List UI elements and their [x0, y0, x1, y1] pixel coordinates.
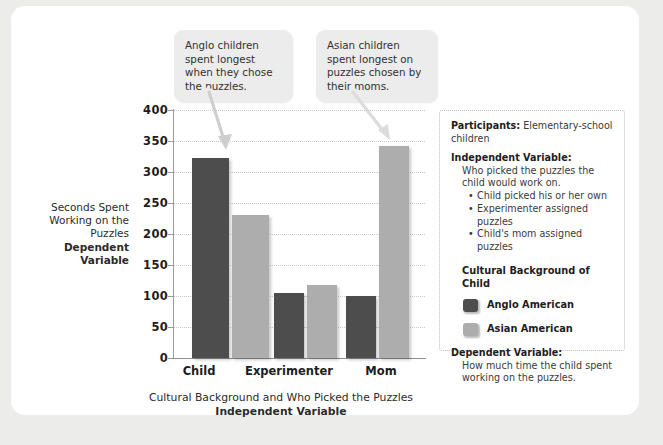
bar-mom-anglo[interactable] — [346, 296, 376, 358]
legend-heading: Cultural Background of Child — [451, 265, 614, 290]
iv-bullet-3: Child's mom assigned puzzles — [477, 228, 614, 254]
iv-label: Independent Variable: — [451, 152, 614, 165]
bar-experimenter-asian[interactable] — [307, 285, 337, 358]
figure-card: Anglo children spent longest when they c… — [11, 6, 639, 415]
gridline-400 — [174, 110, 425, 111]
participants-block: Participants: Elementary-school children — [451, 120, 614, 145]
x-axis-title: Cultural Background and Who Picked the P… — [131, 391, 431, 419]
y-tick-50: 50 — [132, 320, 168, 334]
independent-variable-block: Independent Variable: Who picked the puz… — [451, 152, 614, 254]
y-axis-title-line3: Puzzles — [29, 227, 129, 240]
x-category-experimenter: Experimenter — [239, 364, 339, 378]
callout-anglo: Anglo children spent longest when they c… — [174, 30, 292, 102]
x-category-child: Child — [159, 364, 239, 378]
x-axis-title-line1: Cultural Background and Who Picked the P… — [131, 391, 431, 405]
bar-child-anglo[interactable] — [192, 158, 229, 358]
iv-bullet-1: Child picked his or her own — [477, 190, 614, 203]
y-axis-title: Seconds Spent Working on the Puzzles Dep… — [29, 201, 129, 267]
callout-asian: Asian children spent longest on puzzles … — [316, 30, 437, 102]
bar-mom-asian[interactable] — [379, 146, 409, 358]
y-tick-350: 350 — [132, 134, 168, 148]
y-axis-title-line1: Seconds Spent — [29, 201, 129, 214]
bar-experimenter-anglo[interactable] — [274, 293, 304, 358]
y-tick-400: 400 — [132, 103, 168, 117]
y-axis-title-bold2: Variable — [29, 254, 129, 267]
info-panel: Participants: Elementary-school children… — [439, 110, 625, 351]
y-tick-200: 200 — [132, 227, 168, 241]
legend-label-asian: Asian American — [487, 323, 573, 336]
y-axis-title-bold1: Dependent — [29, 241, 129, 254]
iv-bullet-list: Child picked his or her own Experimenter… — [451, 190, 614, 254]
dv-text: How much time the child spent working on… — [451, 360, 614, 385]
legend-label-anglo: Anglo American — [487, 299, 574, 312]
y-tick-150: 150 — [132, 258, 168, 272]
legend-item-anglo: Anglo American — [451, 299, 614, 312]
y-tick-0: 0 — [132, 351, 168, 365]
plot-area — [174, 110, 425, 358]
x-category-mom: Mom — [341, 364, 421, 378]
bar-child-asian[interactable] — [232, 215, 269, 358]
legend-swatch-anglo-icon — [463, 299, 478, 312]
iv-text: Who picked the puzzles the child would w… — [451, 165, 614, 190]
y-axis-tick-labels: 400 350 300 250 200 150 100 50 0 — [129, 6, 168, 415]
dependent-variable-block: Dependent Variable: How much time the ch… — [451, 347, 614, 385]
iv-bullet-2: Experimenter assigned puzzles — [477, 203, 614, 229]
dv-label: Dependent Variable: — [451, 347, 614, 360]
y-tick-300: 300 — [132, 165, 168, 179]
y-tick-100: 100 — [132, 289, 168, 303]
legend-swatch-asian-icon — [463, 323, 478, 336]
y-axis-title-line2: Working on the — [29, 214, 129, 227]
x-axis-title-line2: Independent Variable — [131, 405, 431, 419]
participants-label: Participants: — [451, 120, 520, 131]
legend-item-asian: Asian American — [451, 323, 614, 336]
gridline-350 — [174, 141, 425, 142]
x-axis-line — [173, 358, 426, 359]
y-tick-250: 250 — [132, 196, 168, 210]
